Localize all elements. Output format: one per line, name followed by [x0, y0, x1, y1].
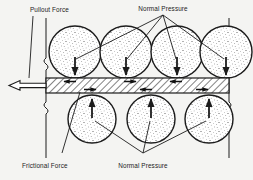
- reinforcement-strip: [46, 78, 229, 93]
- label-normal-pressure-bottom: Normal Pressure: [118, 162, 168, 169]
- label-normal-pressure-top: Normal Pressure: [138, 5, 188, 12]
- figure-container: Pullout Force Normal Pressure Frictional…: [0, 0, 253, 180]
- label-pullout-force: Pullout Force: [30, 6, 69, 13]
- label-frictional-force: Frictional Force: [22, 162, 68, 169]
- pullout-mechanism-diagram: Pullout Force Normal Pressure Frictional…: [0, 0, 253, 180]
